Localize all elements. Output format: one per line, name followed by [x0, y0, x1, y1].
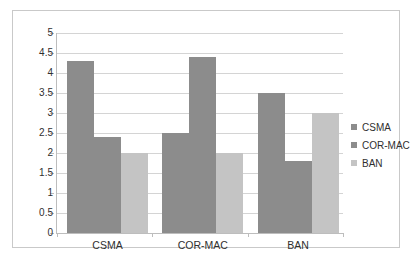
bar: [258, 93, 285, 233]
y-axis-tick-label: 3: [23, 108, 53, 118]
bar: [121, 153, 148, 233]
x-axis-category-label: COR-MAC: [155, 239, 250, 252]
bar: [162, 133, 189, 233]
gridline: [57, 53, 343, 54]
y-axis-tick-label: 3.5: [23, 88, 53, 98]
bar: [189, 57, 216, 233]
x-axis-category-labels: CSMACOR-MACBAN: [57, 239, 343, 255]
y-axis-tick-label: 0: [23, 228, 53, 238]
chart-figure: 00.511.522.533.544.55 CSMACOR-MACBAN CSM…: [0, 0, 414, 261]
bar: [216, 153, 243, 233]
legend-label: CSMA: [362, 122, 391, 133]
x-axis-category-label: CSMA: [60, 239, 155, 252]
y-axis-tick-label: 0.5: [23, 208, 53, 218]
chart-legend: CSMACOR-MACBAN: [351, 120, 411, 174]
legend-label: COR-MAC: [362, 140, 410, 151]
legend-item: CSMA: [351, 120, 411, 134]
chart-border: 00.511.522.533.544.55 CSMACOR-MACBAN CSM…: [12, 10, 400, 248]
bar: [312, 113, 339, 233]
bar: [67, 61, 94, 233]
y-axis-tick-label: 2.5: [23, 128, 53, 138]
legend-swatch-icon: [351, 124, 357, 130]
legend-item: BAN: [351, 156, 411, 170]
bar: [94, 137, 121, 233]
x-axis-tick-mark: [152, 233, 153, 237]
x-axis-category-label: BAN: [251, 239, 346, 252]
gridline: [57, 33, 343, 34]
legend-swatch-icon: [351, 160, 357, 166]
legend-label: BAN: [362, 158, 383, 169]
y-axis-tick-labels: 00.511.522.533.544.55: [19, 33, 53, 233]
y-axis-tick-label: 4.5: [23, 48, 53, 58]
bar: [285, 161, 312, 233]
gridline: [57, 233, 343, 234]
y-axis-tick-label: 1: [23, 188, 53, 198]
y-axis-tick-label: 2: [23, 148, 53, 158]
legend-swatch-icon: [351, 142, 357, 148]
x-axis-tick-mark: [57, 233, 58, 237]
x-axis-tick-mark: [248, 233, 249, 237]
y-axis-tick-label: 5: [23, 28, 53, 38]
plot-area: [57, 33, 343, 233]
legend-item: COR-MAC: [351, 138, 411, 152]
y-axis-tick-label: 1.5: [23, 168, 53, 178]
x-axis-tick-mark: [343, 233, 344, 237]
y-axis-tick-label: 4: [23, 68, 53, 78]
